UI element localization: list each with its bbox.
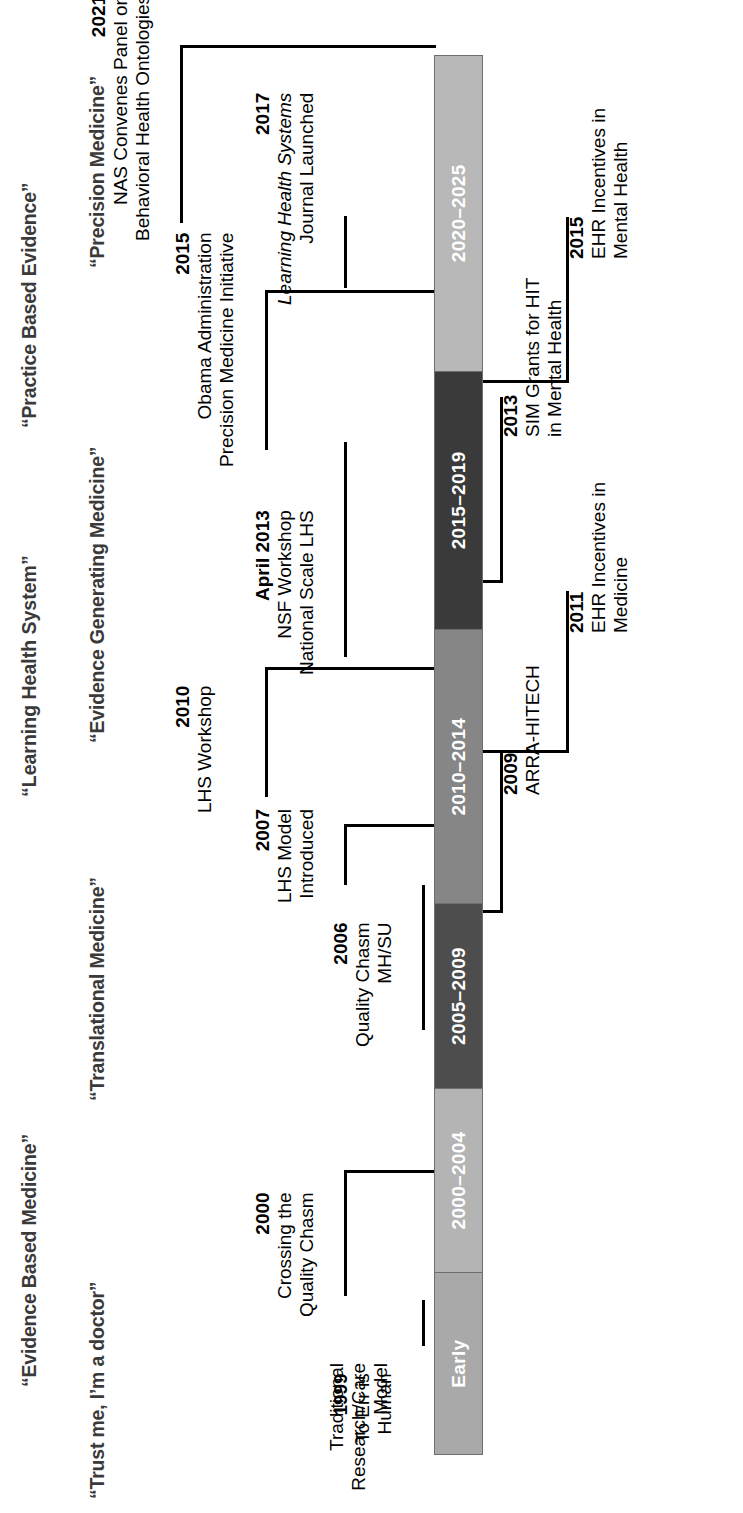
event-year: 2013 (500, 278, 522, 437)
event-desc-line: LHS Workshop (194, 686, 216, 813)
leader-line-2015-ehr-h (566, 217, 569, 383)
event-above-2017: 2017 Learning Health Systems Journal Lau… (252, 93, 318, 305)
event-desc-line: To Err is (352, 1373, 374, 1443)
timeline-segment-2005-2009: 2005–2009 (435, 903, 482, 1088)
event-desc-line: EHR Incentives in (588, 108, 610, 259)
event-desc-line: EHR Incentives in (588, 482, 610, 633)
leader-line-2021-v (180, 45, 436, 48)
event-desc-line: LHS Model (274, 809, 296, 903)
paradigm-label-practice-based-evidence: “Practice Based Evidence” (18, 183, 41, 428)
leader-line-2010-h (265, 667, 268, 797)
timeline-segment-label: 2020–2025 (448, 164, 470, 262)
paradigm-label-translational-medicine: “Translational Medicine” (86, 877, 109, 1101)
event-above-2010: 2010 LHS Workshop (172, 686, 216, 813)
event-desc-line: Obama Administration (194, 233, 216, 467)
event-above-2021: 2021 NAS Convenes Panel on Behavioral He… (88, 0, 154, 241)
event-year: 2000 (252, 1192, 274, 1317)
timeline-segment-2000-2004: 2000–2004 (435, 1088, 482, 1273)
leader-line-2006 (422, 885, 425, 1030)
event-year: 2007 (252, 809, 274, 903)
leader-line-2007-v (344, 824, 434, 827)
leader-line-2000-h (344, 1171, 347, 1296)
event-desc-line: Behavioral Health Ontologies (132, 0, 154, 241)
leader-line-2013-v (480, 580, 502, 583)
event-year: 2021 (88, 0, 110, 241)
event-desc-line: NSF Workshop (274, 510, 296, 675)
event-desc-line: Mental Health (610, 108, 632, 259)
event-year: 1999 (330, 1373, 352, 1443)
event-year: 2015 (566, 108, 588, 259)
event-above-2006: 2006 Quality Chasm MH/SU (330, 922, 396, 1047)
timeline-segment-label: 2010–2014 (448, 718, 470, 816)
event-desc-line: ARRA-HITECH (522, 665, 544, 795)
event-year: April 2013 (252, 510, 274, 675)
event-desc-line: Quality Chasm (296, 1192, 318, 1317)
event-year: 2009 (500, 665, 522, 795)
event-desc-line: NAS Convenes Panel on (110, 0, 132, 241)
timeline-segment-label: 2015–2019 (448, 451, 470, 549)
timeline-segment-2015-2019: 2015–2019 (435, 371, 482, 630)
event-desc-line: Precision Medicine Initiative (216, 233, 238, 467)
leader-line-2015-ehr-v (480, 380, 568, 383)
leader-line-april-2013 (344, 442, 347, 657)
event-above-2015-precision: 2015 Obama Administration Precision Medi… (172, 233, 238, 467)
event-desc-line: Journal Launched (296, 93, 318, 305)
event-below-2011: 2011 EHR Incentives in Medicine (566, 482, 632, 633)
event-below-2009: 2009 ARRA-HITECH (500, 665, 544, 795)
leader-line-2000-v (344, 1170, 434, 1173)
timeline-segment-label: 2005–2009 (448, 947, 470, 1045)
paradigm-label-evidence-generating-medicine: “Evidence Generating Medicine” (86, 447, 109, 743)
leader-line-2013-h (500, 397, 503, 583)
event-desc-line: National Scale LHS (296, 510, 318, 675)
timeline-segment-label: 2000–2004 (448, 1132, 470, 1230)
timeline-bar: Early2000–20042005–20092010–20142015–201… (434, 55, 483, 1455)
timeline-figure: “Learning Health System” “Evidence Based… (0, 0, 743, 1513)
event-above-1999: 1999 To Err is Human (330, 1373, 396, 1443)
leader-line-2009-v (480, 910, 502, 913)
event-desc-line: Crossing the (274, 1192, 296, 1317)
leader-line-2009-h (500, 753, 503, 913)
leader-line-2007 (344, 825, 347, 885)
event-desc-line: Introduced (296, 809, 318, 903)
event-year: 2015 (172, 233, 194, 467)
event-below-2015-ehr: 2015 EHR Incentives in Mental Health (566, 108, 632, 259)
event-desc-line: SIM Grants for HIT (522, 278, 544, 437)
event-year: 2010 (172, 686, 194, 813)
leader-line-2011-h (566, 591, 569, 753)
timeline-segment-label: Early (448, 1340, 470, 1388)
paradigm-label-trust-me-im-a-doctor: “Trust me, I’m a doctor” (86, 1282, 109, 1499)
timeline-segment-early: Early (435, 1272, 482, 1454)
event-year: 2011 (566, 482, 588, 633)
rotated-figure-wrapper: “Learning Health System” “Evidence Based… (0, 0, 743, 1513)
leader-line-1999 (422, 1300, 425, 1346)
event-above-april-2013: April 2013 NSF Workshop National Scale L… (252, 510, 318, 675)
event-desc-line: Learning Health Systems (274, 93, 296, 305)
leader-line-2017 (344, 216, 347, 288)
event-year: 2017 (252, 93, 274, 305)
event-above-2000: 2000 Crossing the Quality Chasm (252, 1192, 318, 1317)
event-desc-line: MH/SU (374, 922, 396, 1047)
event-above-2007: 2007 LHS Model Introduced (252, 809, 318, 903)
timeline-segment-2020-2025: 2020–2025 (435, 56, 482, 371)
event-desc-line: Quality Chasm (352, 922, 374, 1047)
event-desc-line: in Mental Health (544, 278, 566, 437)
figure-title: “Learning Health System” (18, 555, 41, 797)
event-desc-line: Human (374, 1373, 396, 1443)
event-year: 2006 (330, 922, 352, 1047)
timeline-segment-2010-2014: 2010–2014 (435, 629, 482, 903)
event-below-2013: 2013 SIM Grants for HIT in Mental Health (500, 278, 566, 437)
leader-line-2011-v (480, 750, 568, 753)
leader-line-2021-h (180, 45, 183, 223)
leader-line-2015-precision (265, 290, 268, 450)
event-desc-line: Medicine (610, 482, 632, 633)
paradigm-label-evidence-based-medicine: “Evidence Based Medicine” (18, 1134, 41, 1387)
